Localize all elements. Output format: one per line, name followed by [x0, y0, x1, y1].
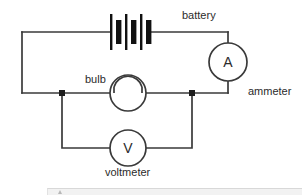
bulb-label: bulb — [85, 74, 106, 85]
battery-plate-short-1 — [116, 20, 121, 44]
circuit-diagram-figure: A V battery ammeter bulb voltmeter — [0, 0, 302, 195]
battery-plate-short-2 — [131, 20, 136, 44]
caret-up-icon — [58, 190, 62, 194]
circuit-schematic: A V — [0, 0, 302, 195]
bulb-symbol — [110, 75, 146, 111]
voltmeter-letter: V — [123, 140, 133, 156]
wire-voltmeter-left — [62, 93, 110, 148]
battery-plate-long-2 — [125, 14, 127, 50]
battery-plate-short-3 — [146, 20, 151, 44]
ammeter-label: ammeter — [248, 86, 291, 97]
battery-label: battery — [182, 10, 216, 21]
battery-plate-long-1 — [110, 14, 112, 50]
bulb-circle — [110, 75, 146, 111]
wire-voltmeter-right — [146, 93, 192, 148]
battery-symbol — [110, 14, 151, 50]
voltmeter-symbol: V — [110, 130, 146, 166]
ammeter-symbol: A — [209, 43, 247, 81]
voltmeter-label: voltmeter — [105, 167, 150, 178]
bottom-toolbar-strip — [47, 188, 302, 195]
right-junction-dot — [189, 90, 195, 96]
left-junction-dot — [59, 90, 65, 96]
battery-plate-long-3 — [140, 14, 142, 50]
ammeter-letter: A — [223, 54, 233, 70]
